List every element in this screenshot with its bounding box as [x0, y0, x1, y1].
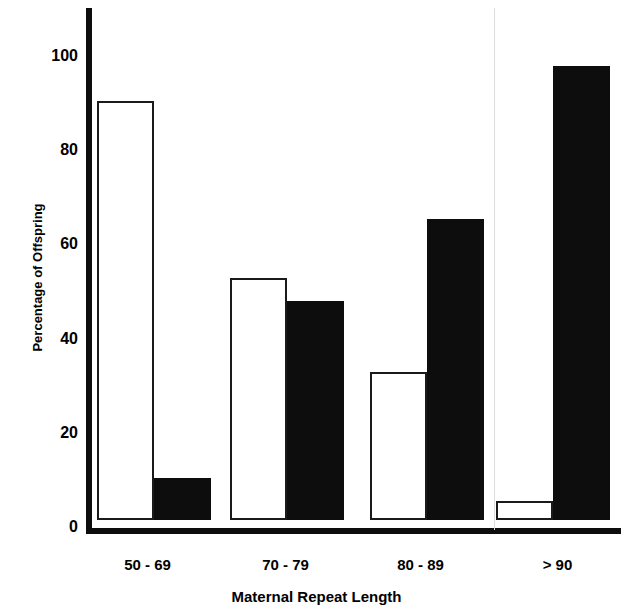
x-tick-label-0: 50 - 69: [80, 556, 215, 573]
y-axis-tick-labels: 100 80 60 40 20 0: [32, 0, 78, 606]
y-tick-0: 0: [32, 519, 78, 535]
y-tick-20: 20: [32, 425, 78, 441]
plot-area: [92, 8, 621, 528]
bar-filled-0: [154, 478, 211, 520]
bar-open-0: [97, 101, 154, 520]
x-tick-label-1: 70 - 79: [218, 556, 353, 573]
bar-open-2: [370, 372, 427, 520]
y-tick-60: 60: [32, 236, 78, 252]
bar-chart: Percentage of Offspring 100 80 60 40 20 …: [0, 0, 633, 606]
bar-filled-1: [287, 301, 344, 520]
x-tick-label-2: 80 - 89: [353, 556, 488, 573]
bar-filled-2: [427, 219, 484, 520]
x-axis-line: [86, 528, 621, 534]
x-tick-label-3: > 90: [495, 556, 620, 573]
y-tick-40: 40: [32, 331, 78, 347]
bar-open-1: [230, 278, 287, 520]
bar-open-3: [496, 501, 553, 520]
bar-filled-3: [553, 66, 610, 520]
x-axis-title: Maternal Repeat Length: [0, 588, 633, 605]
y-tick-80: 80: [32, 142, 78, 158]
y-tick-100: 100: [32, 48, 78, 64]
